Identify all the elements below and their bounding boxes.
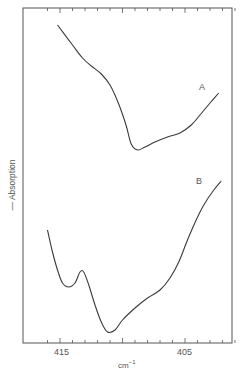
x-axis-unit: cm [118, 361, 129, 370]
top-ticks [48, 8, 236, 13]
x-tick-label-415: 415 [54, 347, 69, 357]
curve-a [58, 25, 219, 150]
plot-area [0, 0, 240, 375]
curve-b [48, 181, 222, 333]
y-axis-label: — Absorption [7, 159, 17, 210]
x-axis-unit-exponent: −1 [129, 359, 136, 365]
bottom-ticks [48, 338, 236, 343]
x-tick-label-405: 405 [177, 347, 192, 357]
curve-a-label: A [199, 82, 205, 92]
absorption-spectrum-figure: A B 415 405 cm−1 — Absorption [0, 0, 240, 375]
x-axis-label: cm−1 [118, 359, 136, 370]
curve-b-label: B [196, 176, 202, 186]
